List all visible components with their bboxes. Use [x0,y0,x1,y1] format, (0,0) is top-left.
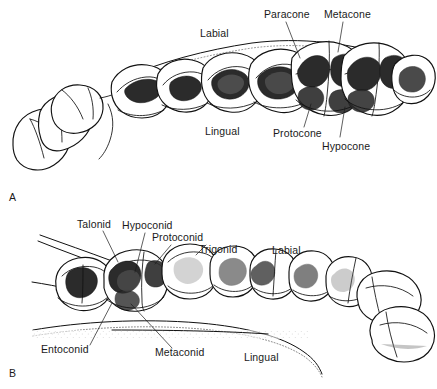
label-hypoconid: Hypoconid [122,219,173,231]
panel-a-illustration [13,22,435,170]
label-protoconid: Protoconid [152,231,203,243]
tooth-lower-molar-2-labelled [104,250,168,311]
leader-talonid [103,231,118,262]
tooth-upper-molar-5 [392,55,435,103]
label-hypocone: Hypocone [322,140,370,152]
label-protocone: Protocone [273,127,322,139]
panel-letter-b: B [9,367,16,379]
tooth-upper-canine [51,85,103,133]
tooth-lower-incisor-1 [370,307,434,362]
leader-metaconid [131,304,172,348]
label-labial-lower: Labial [272,244,301,256]
label-entoconid: Entoconid [41,343,89,355]
label-talonid: Talonid [77,218,111,230]
figure-canvas: Paracone Metacone Labial Lingual Protoco… [0,0,437,389]
label-metacone: Metacone [324,8,371,20]
label-paracone: Paracone [264,8,310,20]
label-labial-upper: Labial [200,27,229,39]
label-lingual-lower: Lingual [244,351,279,363]
label-trigonid: Trigonid [199,243,237,255]
label-metaconid: Metaconid [155,346,204,358]
label-lingual-upper: Lingual [205,125,240,137]
dentition-figure: Paracone Metacone Labial Lingual Protoco… [0,0,437,389]
panel-letter-a: A [9,191,16,203]
